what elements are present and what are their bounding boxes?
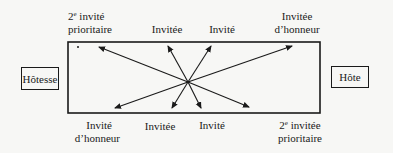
- hotesse-label: Hôtesse: [23, 73, 58, 85]
- seat-bottom-2: Invitée: [140, 120, 180, 133]
- arrow-to-invite-bottom: [188, 82, 201, 108]
- arrow-to-invite-top: [188, 46, 211, 82]
- seat-top-4: Invitée d’honneur: [272, 10, 322, 36]
- hote-label: Hôte: [339, 71, 360, 83]
- arrow-to-invitee-bottom: [172, 82, 188, 108]
- seat-top-3: Invité: [204, 23, 240, 36]
- arrow-to-invitee-top: [168, 46, 188, 82]
- seat-bottom-4-line1: 2e invitée: [275, 119, 325, 132]
- table-rectangle: [68, 42, 320, 113]
- hote-box: Hôte: [331, 66, 369, 88]
- hotesse-box: Hôtesse: [21, 67, 59, 90]
- arrow-to-2e-invite-prioritaire: [99, 47, 188, 82]
- seat-top-1-line1: 2e invité: [68, 10, 112, 23]
- seat-top-1: 2e invité prioritaire: [68, 10, 112, 36]
- marker-dot: [77, 46, 79, 48]
- arrow-to-2e-invitee-prioritaire: [188, 82, 249, 107]
- seat-top-1-line2: prioritaire: [68, 23, 112, 36]
- seat-bottom-4: 2e invitée prioritaire: [275, 119, 325, 145]
- arrow-to-invite-dhonneur: [115, 82, 188, 108]
- seat-bottom-1: Invité d’honneur: [70, 119, 120, 145]
- seat-bottom-3: Invité: [194, 119, 230, 132]
- arrow-to-invitee-dhonneur: [188, 46, 292, 82]
- seat-top-2: Invitée: [147, 23, 187, 36]
- seating-diagram: Hôtesse Hôte 2e invité prioritaire Invit…: [0, 0, 393, 153]
